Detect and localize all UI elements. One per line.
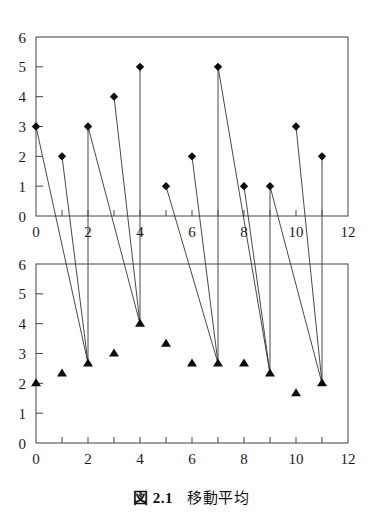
y-tick-label: 3 — [19, 346, 27, 362]
connector-line — [88, 127, 140, 324]
x-tick-label: 0 — [32, 224, 40, 240]
data-point-triangle — [317, 378, 327, 386]
connector-line — [36, 127, 88, 364]
x-tick-label: 2 — [84, 224, 92, 240]
data-point-triangle — [135, 319, 145, 327]
y-tick-label: 1 — [19, 179, 27, 195]
x-tick-label: 4 — [136, 224, 144, 240]
data-point-diamond — [214, 63, 222, 71]
x-tick-label: 6 — [188, 451, 196, 467]
figure-moving-average: 01234560246810120123456024681012 — [0, 0, 382, 524]
data-point-triangle — [83, 358, 93, 366]
chart-panel-raw: 0123456024681012 — [19, 30, 356, 241]
data-point-triangle — [291, 388, 301, 396]
chart-panel-moving-average: 0123456024681012 — [19, 257, 356, 468]
x-tick-label: 10 — [289, 451, 304, 467]
figure-caption: 図 2.1移動平均 — [0, 486, 382, 507]
data-point-diamond — [188, 152, 196, 160]
data-point-diamond — [318, 152, 326, 160]
y-tick-label: 6 — [19, 257, 27, 273]
data-point-diamond — [32, 122, 40, 130]
x-tick-label: 4 — [136, 451, 144, 467]
data-point-diamond — [240, 182, 248, 190]
connector-lines — [36, 67, 322, 384]
x-tick-label: 2 — [84, 451, 92, 467]
connector-line — [244, 186, 270, 373]
y-tick-label: 6 — [19, 30, 27, 46]
y-tick-label: 1 — [19, 406, 27, 422]
x-tick-label: 12 — [341, 451, 356, 467]
figure-caption-text: 移動平均 — [187, 490, 249, 506]
connector-line — [296, 127, 322, 384]
y-tick-label: 0 — [19, 436, 27, 452]
y-tick-label: 2 — [19, 376, 27, 392]
data-point-diamond — [58, 152, 66, 160]
data-point-triangle — [213, 358, 223, 366]
y-tick-label: 4 — [19, 89, 27, 105]
data-point-triangle — [57, 369, 67, 377]
x-tick-label: 12 — [341, 224, 356, 240]
y-tick-label: 4 — [19, 316, 27, 332]
data-point-diamond — [110, 92, 118, 100]
data-point-diamond — [162, 182, 170, 190]
y-tick-label: 3 — [19, 119, 27, 135]
connector-line — [62, 156, 88, 363]
data-point-triangle — [187, 358, 197, 366]
y-tick-label: 5 — [19, 286, 27, 302]
x-tick-label: 8 — [240, 224, 248, 240]
x-tick-label: 8 — [240, 451, 248, 467]
x-tick-label: 0 — [32, 451, 40, 467]
connector-line — [218, 67, 270, 374]
plot-frame — [36, 264, 348, 443]
data-point-triangle — [239, 358, 249, 366]
data-point-diamond — [292, 122, 300, 130]
data-point-diamond — [266, 182, 274, 190]
data-point-diamond — [136, 63, 144, 71]
connector-line — [114, 97, 140, 324]
y-tick-label: 5 — [19, 59, 27, 75]
data-point-diamond — [84, 122, 92, 130]
figure-svg: 01234560246810120123456024681012 — [0, 0, 382, 524]
y-tick-label: 0 — [19, 209, 27, 225]
x-tick-label: 6 — [188, 224, 196, 240]
data-point-triangle — [109, 349, 119, 357]
data-point-triangle — [265, 369, 275, 377]
y-tick-label: 2 — [19, 149, 27, 165]
plot-frame — [36, 37, 348, 216]
connector-line — [192, 156, 218, 363]
data-point-triangle — [31, 378, 41, 386]
figure-number: 図 2.1 — [133, 490, 173, 506]
x-tick-label: 10 — [289, 224, 304, 240]
data-point-triangle — [161, 339, 171, 347]
